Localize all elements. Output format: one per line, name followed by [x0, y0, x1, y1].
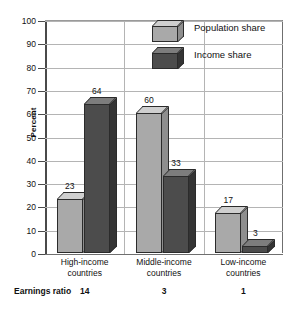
legend-item-income-share: Income share	[152, 41, 287, 68]
bar-income-share: 64	[84, 104, 110, 253]
bar-front-face	[84, 104, 110, 253]
y-axis-tick	[38, 207, 45, 208]
category-label: Low-incomecountries	[204, 257, 283, 279]
y-axis-tick-label: 30	[27, 179, 36, 189]
y-axis-tick-label: 100	[22, 16, 36, 26]
y-axis-tick-label: 50	[27, 133, 36, 143]
y-axis-tick	[38, 254, 45, 255]
bar-value-label: 64	[84, 86, 110, 96]
category-label-line: High-income	[45, 257, 124, 268]
legend-swatch-income-share-icon	[152, 47, 178, 63]
y-axis-tick	[38, 138, 45, 139]
y-axis-tick	[38, 91, 45, 92]
y-axis-tick-label: 10	[27, 226, 36, 236]
category-label: High-incomecountries	[45, 257, 124, 279]
y-axis-tick	[38, 44, 45, 45]
category-label-line: countries	[124, 268, 203, 279]
bar-front-face	[57, 199, 83, 253]
y-axis-tick	[38, 21, 45, 22]
legend: Population share Income share	[152, 14, 287, 68]
earnings-ratio-value: 1	[204, 286, 283, 296]
y-axis-tick	[38, 114, 45, 115]
y-axis-tick	[38, 231, 45, 232]
bar-income-share: 33	[163, 176, 189, 253]
y-axis-tick	[38, 161, 45, 162]
bar-front-face	[215, 213, 241, 253]
earnings-ratio-value: 14	[45, 286, 124, 296]
bar-front-face	[242, 246, 268, 253]
y-axis-tick-label: 20	[27, 202, 36, 212]
category-label-line: countries	[45, 268, 124, 279]
y-axis-tick-label: 0	[31, 249, 36, 259]
bar-income-share: 3	[242, 246, 268, 253]
bar-population-share: 17	[215, 213, 241, 253]
bar-front-face	[163, 176, 189, 253]
bar-value-label: 33	[163, 158, 189, 168]
category-label: Middle-incomecountries	[124, 257, 203, 279]
y-axis-tick-label: 60	[27, 109, 36, 119]
bar-chart: Percent 0102030405060708090100 236460331…	[0, 0, 295, 309]
y-axis-tick-label: 40	[27, 156, 36, 166]
bar-value-label: 17	[215, 195, 241, 205]
gridline	[45, 91, 283, 92]
y-axis-tick	[38, 68, 45, 69]
earnings-ratio-value: 3	[124, 286, 203, 296]
y-axis-tick	[38, 184, 45, 185]
bar-value-label: 3	[242, 228, 268, 238]
legend-label-income-share: Income share	[194, 49, 252, 60]
bar-front-face	[136, 113, 162, 253]
bar-population-share: 60	[136, 113, 162, 253]
legend-item-population-share: Population share	[152, 14, 287, 41]
legend-swatch-population-share-icon	[152, 20, 178, 36]
group-separator	[124, 21, 125, 254]
bar-value-label: 60	[136, 95, 162, 105]
bar-side-face	[189, 169, 196, 253]
gridline	[45, 254, 283, 255]
y-axis-tick-label: 90	[27, 39, 36, 49]
category-label-line: Low-income	[204, 257, 283, 268]
y-axis-tick-label: 80	[27, 63, 36, 73]
category-label-line: Middle-income	[124, 257, 203, 268]
bar-side-face	[110, 97, 117, 253]
legend-label-population-share: Population share	[194, 22, 265, 33]
y-axis-title: Percent	[29, 93, 38, 153]
bar-population-share: 23	[57, 199, 83, 253]
y-axis-tick-label: 70	[27, 86, 36, 96]
bar-value-label: 23	[57, 181, 83, 191]
category-label-line: countries	[204, 268, 283, 279]
